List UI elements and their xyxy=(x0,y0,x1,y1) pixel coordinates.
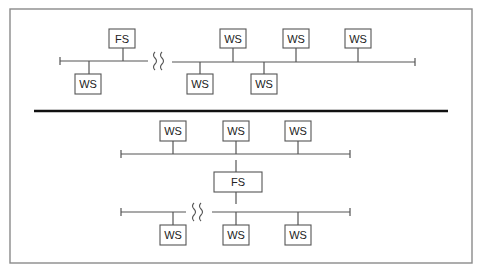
workstation-node-label: WS xyxy=(289,125,307,137)
workstation-node-label: WS xyxy=(227,229,245,241)
link-break-squiggle-icon xyxy=(193,203,196,221)
workstation-node-label: WS xyxy=(191,78,209,90)
workstation-node-label: WS xyxy=(287,33,305,45)
workstation-node-label: WS xyxy=(349,33,367,45)
workstation-node-label: WS xyxy=(164,229,182,241)
workstation-node-label: WS xyxy=(255,78,273,90)
workstation-node-label: WS xyxy=(79,78,97,90)
workstation-node-label: WS xyxy=(289,229,307,241)
link-break-squiggle-icon xyxy=(200,203,203,221)
workstation-node-label: WS xyxy=(164,125,182,137)
file-server-node-label: FS xyxy=(231,176,245,188)
file-server-node-label: FS xyxy=(115,33,129,45)
link-break-squiggle-icon xyxy=(154,52,157,70)
network-diagram: FSWSWSWSWSWSWSWSWSWSFSWSWSWS xyxy=(0,0,483,272)
workstation-node-label: WS xyxy=(224,33,242,45)
link-break-squiggle-icon xyxy=(161,52,164,70)
workstation-node-label: WS xyxy=(227,125,245,137)
